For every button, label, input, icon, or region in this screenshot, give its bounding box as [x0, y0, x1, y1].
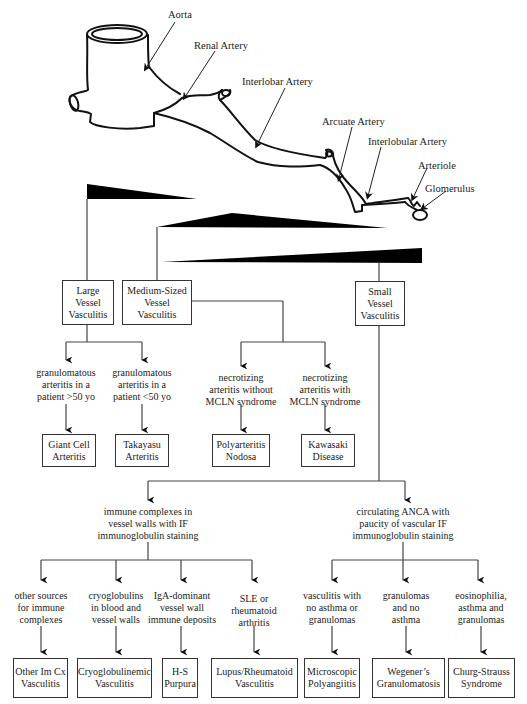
criteria-line: vessel walls with IF — [88, 518, 208, 530]
label-arteriole: Arteriole — [418, 160, 456, 172]
criteria-line: vessel wall — [145, 602, 219, 614]
box-text: Syndrome — [453, 678, 510, 690]
criteria-line: arthritis — [220, 617, 288, 629]
criteria-microscopic-polyangiitis: vasculitis with no asthma or granulomas — [297, 590, 367, 626]
kawasaki-disease-box: KawasakiDisease — [301, 434, 355, 467]
box-text: Purpura — [164, 678, 196, 690]
cryoglobulinemic-vasculitis-box: CryoglobulinemicVasculitis — [77, 658, 152, 698]
medium-vessel-wedge — [157, 213, 387, 228]
box-text: H-S — [164, 666, 196, 678]
criteria-line: complexes — [5, 614, 77, 626]
box-text: Vasculitis — [361, 310, 400, 322]
criteria-line: cryoglobulins — [80, 590, 152, 602]
box-text: Other Im Cx — [15, 666, 66, 678]
box-text: Microscopic — [307, 666, 357, 678]
criteria-line: in blood and — [80, 602, 152, 614]
box-text: Vessel — [361, 298, 400, 310]
box-text: Polyangiitis — [307, 678, 357, 690]
criteria-line: MCLN syndrome — [196, 396, 286, 408]
anatomy-pointers — [146, 22, 446, 208]
criteria-line: granulomas — [447, 614, 515, 626]
box-text: Vessel — [69, 297, 108, 309]
criteria-line: immune complexes in — [88, 506, 208, 518]
criteria-polyarteritis: necrotizing arteritis without MCLN syndr… — [196, 372, 286, 408]
criteria-line: IgA-dominant — [145, 590, 219, 602]
box-text: Churg-Strauss — [453, 666, 510, 678]
hs-purpura-box: H-SPurpura — [162, 658, 198, 698]
box-text: Arteritis — [48, 451, 89, 463]
box-text: Vasculitis — [15, 678, 66, 690]
left-renal-stub — [68, 94, 80, 112]
criteria-line: eosinophilia, — [447, 590, 515, 602]
criteria-line: rheumatoid — [220, 605, 288, 617]
criteria-cryoglobulinemic: cryoglobulins in blood and vessel walls — [80, 590, 152, 626]
criteria-line: arteritis in a — [102, 379, 182, 391]
criteria-line: patient >50 yo — [26, 391, 106, 403]
criteria-hs-purpura: IgA-dominant vessel wall immune deposits — [145, 590, 219, 626]
criteria-line: arteritis without — [196, 384, 286, 396]
box-text: Kawasaki — [308, 439, 347, 451]
giant-cell-arteritis-box: Giant CellArteritis — [42, 434, 96, 467]
criteria-line: granulomatous — [102, 367, 182, 379]
box-text: Disease — [308, 451, 347, 463]
criteria-kawasaki: necrotizing arteritis with MCLN syndrome — [280, 372, 370, 408]
box-text: Vasculitis — [216, 678, 293, 690]
box-text: Vessel — [127, 297, 186, 309]
criteria-immune-complex: immune complexes in vessel walls with IF… — [88, 506, 208, 542]
criteria-line: no asthma or — [297, 602, 367, 614]
criteria-lupus-rheumatoid: SLE or rheumatoid arthritis — [220, 593, 288, 629]
criteria-line: for immune — [5, 602, 77, 614]
label-interlobular-artery: Interlobular Artery — [368, 136, 447, 148]
criteria-wegeners: granulomas and no asthma — [373, 590, 439, 626]
box-text: Giant Cell — [48, 439, 89, 451]
connector-lines — [41, 199, 481, 652]
criteria-line: granulomas — [297, 614, 367, 626]
label-glomerulus: Glomerulus — [425, 183, 475, 195]
label-interlobar-artery: Interlobar Artery — [242, 76, 313, 88]
label-arcuate-artery: Arcuate Artery — [322, 116, 385, 128]
wegeners-granulomatosis-box: Wegener’sGranulomatosis — [372, 658, 445, 698]
criteria-line: MCLN syndrome — [280, 396, 370, 408]
churg-strauss-syndrome-box: Churg-StraussSyndrome — [448, 658, 515, 698]
criteria-line: other sources — [5, 590, 77, 602]
criteria-line: patient <50 yo — [102, 391, 182, 403]
medium-vessel-vasculitis-box: Medium-SizedVesselVasculitis — [122, 280, 192, 325]
criteria-line: asthma and — [447, 602, 515, 614]
box-text: Nodosa — [217, 451, 266, 463]
criteria-line: paucity of vascular IF — [343, 518, 463, 530]
box-text: Vasculitis — [127, 309, 186, 321]
microscopic-polyangiitis-box: MicroscopicPolyangiitis — [304, 658, 360, 698]
label-renal-artery: Renal Artery — [194, 40, 248, 52]
criteria-line: necrotizing — [280, 372, 370, 384]
box-text: Takayasu — [123, 439, 161, 451]
small-vessel-vasculitis-box: SmallVesselVasculitis — [355, 281, 405, 326]
large-vessel-wedge — [87, 184, 197, 199]
criteria-line: vasculitis with — [297, 590, 367, 602]
criteria-line: vessel walls — [80, 614, 152, 626]
box-text: Wegener’s — [377, 666, 440, 678]
criteria-line: and no — [373, 602, 439, 614]
small-vessel-wedge — [162, 248, 422, 263]
takayasu-arteritis-box: TakayasuArteritis — [115, 434, 169, 467]
criteria-line: arteritis in a — [26, 379, 106, 391]
box-text: Vasculitis — [69, 309, 108, 321]
box-text: Arteritis — [123, 451, 161, 463]
box-text: Vasculitis — [78, 678, 151, 690]
box-text: Medium-Sized — [127, 285, 186, 297]
large-vessel-vasculitis-box: LargeVesselVasculitis — [62, 280, 114, 325]
criteria-line: necrotizing — [196, 372, 286, 384]
other-im-cx-vasculitis-box: Other Im CxVasculitis — [13, 658, 68, 698]
criteria-churg-strauss: eosinophilia, asthma and granulomas — [447, 590, 515, 626]
box-text: Lupus/Rheumatoid — [216, 666, 293, 678]
label-aorta: Aorta — [168, 9, 192, 21]
criteria-line: immunoglobulin staining — [343, 530, 463, 542]
criteria-line: immunoglobulin staining — [88, 530, 208, 542]
criteria-giant-cell: granulomatous arteritis in a patient >50… — [26, 367, 106, 403]
criteria-line: arteritis with — [280, 384, 370, 396]
box-text: Cryoglobulinemic — [78, 666, 151, 678]
criteria-line: immune deposits — [145, 614, 219, 626]
criteria-anca: circulating ANCA with paucity of vascula… — [343, 506, 463, 542]
box-text: Granulomatosis — [377, 678, 440, 690]
criteria-line: SLE or — [220, 593, 288, 605]
polyarteritis-nodosa-box: PolyarteritisNodosa — [212, 434, 270, 467]
